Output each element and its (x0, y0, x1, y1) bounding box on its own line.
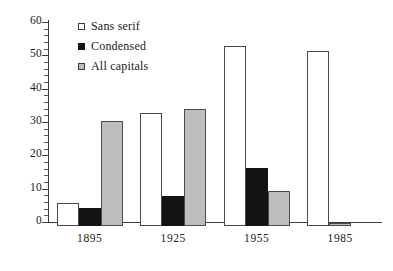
y-axis-tick-label: 10 (4, 182, 42, 194)
legend-item-label: Condensed (91, 39, 146, 54)
bar-group (140, 18, 206, 226)
bar (184, 109, 206, 226)
bar (268, 191, 290, 226)
bar (329, 223, 351, 226)
bar (140, 113, 162, 226)
chart-legend: Sans serif Condensed All capitals (78, 16, 148, 76)
bar (101, 121, 123, 226)
x-axis-tick-label: 1895 (43, 232, 137, 244)
legend-item: Condensed (78, 36, 148, 56)
y-axis-tick-label-wrap: 40 (0, 89, 42, 90)
legend-item-label: Sans serif (91, 19, 140, 34)
y-axis-tick-label: 30 (4, 115, 42, 127)
bar (162, 196, 184, 226)
y-axis-tick-label: 50 (4, 48, 42, 60)
y-axis-tick-label-wrap: 60 (0, 22, 42, 23)
legend-item-label: All capitals (91, 59, 148, 74)
y-axis-tick-label-wrap: 30 (0, 122, 42, 123)
y-axis-tick-label-wrap: 10 (0, 189, 42, 190)
bar-group (307, 18, 373, 226)
y-axis-tick-label-wrap: 50 (0, 55, 42, 56)
x-axis-tick-label: 1985 (293, 232, 387, 244)
bar-group (224, 18, 290, 226)
y-axis-tick-label: 20 (4, 148, 42, 160)
y-axis-tick-label-wrap: 0 (0, 222, 42, 223)
x-axis-tick-label: 1925 (126, 232, 220, 244)
y-axis-tick-label: 40 (4, 82, 42, 94)
legend-item: Sans serif (78, 16, 148, 36)
legend-swatch-icon (78, 23, 85, 30)
bar (246, 168, 268, 226)
bar (307, 51, 329, 226)
y-axis-tick-label: 0 (4, 215, 42, 227)
bar (224, 46, 246, 226)
legend-swatch-icon (78, 43, 85, 50)
bar (79, 208, 101, 226)
legend-item: All capitals (78, 56, 148, 76)
bar (57, 203, 79, 226)
x-axis-tick-label: 1955 (210, 232, 304, 244)
y-axis-tick-label: 60 (4, 15, 42, 27)
bar-chart: 0102030405060 1895192519551985 Sans seri… (0, 0, 393, 271)
legend-swatch-icon (78, 63, 85, 70)
y-axis-tick-label-wrap: 20 (0, 155, 42, 156)
